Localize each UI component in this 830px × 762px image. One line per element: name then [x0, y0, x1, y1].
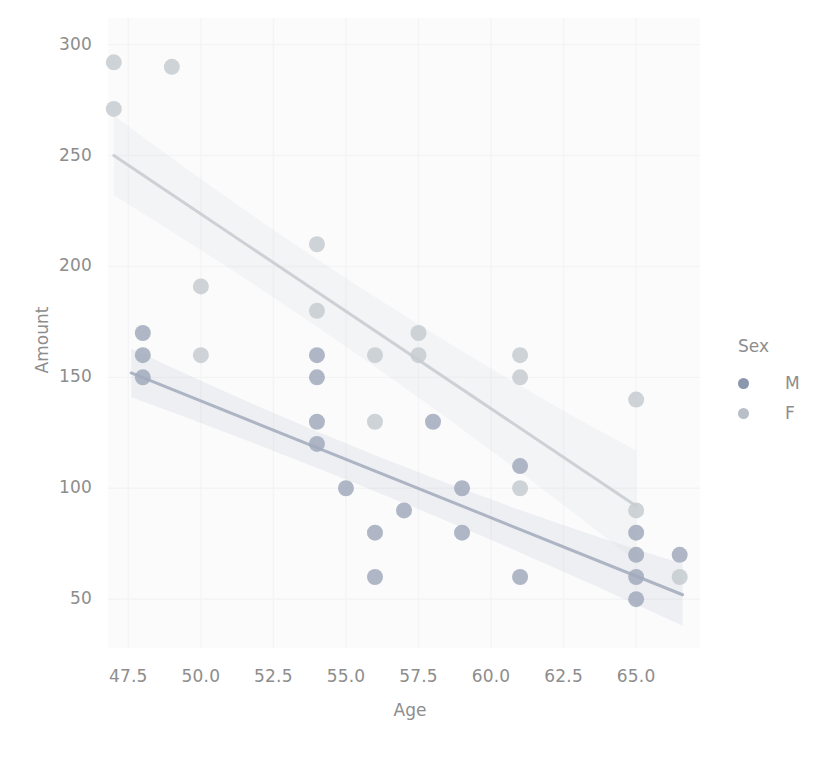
legend-item-f[interactable]: F	[736, 398, 800, 428]
data-point	[309, 414, 325, 430]
data-point	[135, 369, 151, 385]
data-point	[425, 414, 441, 430]
data-point	[512, 369, 528, 385]
data-point	[628, 591, 644, 607]
y-tick-label: 50	[30, 588, 92, 608]
x-tick-label: 55.0	[311, 666, 381, 686]
data-point	[454, 480, 470, 496]
data-point	[367, 569, 383, 585]
data-point	[454, 525, 470, 541]
legend-label-m: M	[785, 373, 800, 393]
data-point	[628, 502, 644, 518]
data-point	[193, 278, 209, 294]
data-point	[193, 347, 209, 363]
data-point	[628, 547, 644, 563]
data-point	[396, 502, 412, 518]
legend-item-m[interactable]: M	[736, 368, 800, 398]
data-point	[672, 569, 688, 585]
data-point	[367, 525, 383, 541]
data-point	[628, 569, 644, 585]
legend: Sex M F	[736, 336, 800, 428]
x-tick-label: 57.5	[384, 666, 454, 686]
y-axis-label: Amount	[32, 280, 52, 400]
data-point	[309, 236, 325, 252]
data-point	[338, 480, 354, 496]
data-point	[628, 392, 644, 408]
data-point	[309, 369, 325, 385]
data-point	[411, 347, 427, 363]
regression-scatter-figure: 50100150200250300 47.550.052.555.057.560…	[0, 0, 830, 762]
legend-title: Sex	[738, 336, 800, 356]
data-point	[309, 436, 325, 452]
x-tick-label: 47.5	[93, 666, 163, 686]
data-point	[135, 325, 151, 341]
data-point	[106, 54, 122, 70]
plot-canvas	[0, 0, 830, 762]
x-tick-label: 50.0	[166, 666, 236, 686]
data-point	[411, 325, 427, 341]
legend-swatch-m	[738, 378, 749, 389]
data-point	[309, 303, 325, 319]
data-point	[512, 458, 528, 474]
data-point	[367, 414, 383, 430]
data-point	[512, 569, 528, 585]
legend-swatch-f	[738, 408, 749, 419]
x-tick-label: 60.0	[456, 666, 526, 686]
x-tick-label: 65.0	[601, 666, 671, 686]
data-point	[135, 347, 151, 363]
x-tick-label: 52.5	[238, 666, 308, 686]
data-point	[367, 347, 383, 363]
data-point	[106, 101, 122, 117]
data-point	[164, 59, 180, 75]
y-tick-label: 100	[30, 477, 92, 497]
y-tick-label: 300	[30, 34, 92, 54]
legend-label-f: F	[785, 403, 795, 423]
x-tick-label: 62.5	[529, 666, 599, 686]
data-point	[672, 547, 688, 563]
data-point	[309, 347, 325, 363]
x-axis-label: Age	[330, 700, 490, 720]
data-point	[628, 525, 644, 541]
data-point	[512, 347, 528, 363]
data-point	[512, 480, 528, 496]
y-tick-label: 250	[30, 145, 92, 165]
y-tick-label: 200	[30, 255, 92, 275]
